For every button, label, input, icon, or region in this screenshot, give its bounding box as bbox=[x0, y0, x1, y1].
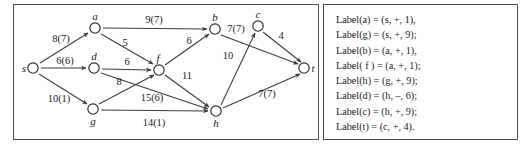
edge-label-b-t: 10 bbox=[223, 50, 234, 61]
node-label-t: t bbox=[311, 62, 315, 74]
edge-label-g-h: 14(1) bbox=[143, 117, 166, 129]
list-item: Label(a) = (s, +, 1), bbox=[336, 12, 511, 27]
edge-label-d-h: 15(6) bbox=[141, 92, 164, 104]
edge-label-a-b: 9(7) bbox=[145, 14, 163, 26]
labels-panel: Label(a) = (s, +, 1), Label(g) = (s, +, … bbox=[323, 4, 518, 140]
labels-list: Label(a) = (s, +, 1), Label(g) = (s, +, … bbox=[336, 12, 511, 134]
edge-h-c bbox=[221, 33, 255, 105]
list-item: Label(c) = (h, +, 9); bbox=[336, 104, 511, 119]
edge-label-f-b: 6 bbox=[186, 35, 191, 46]
edge-a-b bbox=[103, 28, 207, 29]
list-item: Label(t) = (c, +, 4). bbox=[336, 119, 511, 134]
edge-label-g-f: 8 bbox=[116, 76, 121, 87]
edge-label-s-g: 10(1) bbox=[48, 93, 71, 105]
node-label-d: d bbox=[91, 50, 97, 62]
edge-g-h bbox=[101, 110, 208, 111]
figure-container: s a d g f b c h t 8(7) 6(6) 10(1) 9(7) 5… bbox=[0, 0, 527, 157]
node-label-f: f bbox=[156, 52, 161, 64]
node-f bbox=[154, 65, 164, 75]
list-item: Label(b) = (a, +, 1), bbox=[336, 43, 511, 58]
node-t bbox=[299, 63, 309, 73]
edge-label-s-a: 8(7) bbox=[52, 33, 70, 45]
edge-label-h-t: 7(7) bbox=[258, 88, 276, 100]
edge-d-f bbox=[102, 69, 151, 70]
node-b bbox=[210, 24, 220, 34]
node-s bbox=[28, 63, 38, 73]
edge-label-c-t: 4 bbox=[278, 30, 284, 41]
edge-label-a-f: 5 bbox=[122, 37, 127, 48]
node-d bbox=[89, 63, 99, 73]
node-label-h: h bbox=[213, 117, 219, 129]
graph-panel: s a d g f b c h t 8(7) 6(6) 10(1) 9(7) 5… bbox=[13, 4, 319, 140]
node-h bbox=[211, 106, 221, 116]
list-item: Label( f ) = (a, +, 1); bbox=[336, 58, 511, 73]
edge-label-f-h: 11 bbox=[182, 70, 192, 81]
edge-label-h-c: 7(7) bbox=[227, 23, 245, 35]
list-item: Label(g) = (s, +, 9); bbox=[336, 27, 511, 42]
node-label-a: a bbox=[92, 10, 98, 22]
node-a bbox=[90, 23, 100, 33]
node-label-b: b bbox=[212, 11, 218, 23]
edge-label-d-f: 6 bbox=[124, 56, 129, 67]
list-item: Label(h) = (g, +, 9); bbox=[336, 73, 511, 88]
list-item: Label(d) = (h, –, 6); bbox=[336, 88, 511, 103]
node-c bbox=[253, 21, 263, 31]
edge-label-s-d: 6(6) bbox=[56, 55, 74, 67]
node-g bbox=[88, 104, 98, 114]
network-graph: s a d g f b c h t 8(7) 6(6) 10(1) 9(7) 5… bbox=[14, 5, 320, 141]
node-label-g: g bbox=[90, 115, 96, 127]
node-label-c: c bbox=[256, 8, 261, 20]
node-label-s: s bbox=[22, 62, 26, 74]
